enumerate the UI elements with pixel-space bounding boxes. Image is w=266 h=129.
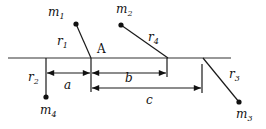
label-r1: r1: [57, 34, 68, 50]
label-m4: m4: [40, 103, 56, 119]
label-m3: m3: [236, 107, 252, 123]
label-m2: m2: [116, 2, 132, 18]
label-r3: r3: [229, 67, 240, 83]
label-point-A: A: [96, 42, 106, 56]
rod-r4: [121, 25, 168, 58]
label-dimension-b: b: [125, 71, 133, 85]
label-m1: m1: [48, 5, 64, 21]
label-dimension-c: c: [146, 93, 153, 107]
diagram-svg: m1 m2 m3 m4 r1 r4 r3 r2 A a b c: [0, 0, 266, 129]
mass-m4-dot: [43, 94, 48, 99]
label-r4: r4: [148, 30, 159, 46]
mass-m2-dot: [118, 22, 123, 27]
rod-r1: [76, 24, 91, 58]
label-r2: r2: [28, 70, 39, 86]
mass-diagram: m1 m2 m3 m4 r1 r4 r3 r2 A a b c: [0, 0, 266, 129]
mass-m3-dot: [236, 99, 241, 104]
mass-m1-dot: [73, 21, 78, 26]
label-dimension-a: a: [64, 78, 71, 92]
